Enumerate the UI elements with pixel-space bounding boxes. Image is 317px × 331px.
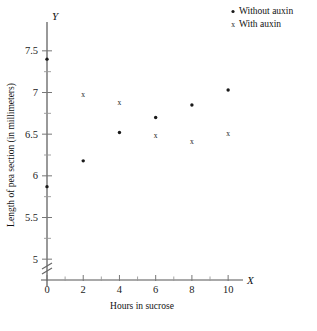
- y-tick-label: 6: [33, 170, 38, 181]
- x-axis-tick-labels: 0246810: [44, 284, 233, 295]
- data-point-x: x: [190, 137, 194, 146]
- data-point-dot: [118, 131, 121, 134]
- data-point-x: x: [226, 129, 230, 138]
- y-axis-name: Y: [52, 10, 60, 22]
- legend-label: With auxin: [239, 19, 281, 29]
- scatter-chart: 55.566.577.5 0246810 Y X Hours in sucros…: [0, 0, 317, 331]
- y-tick-label: 5.5: [25, 212, 38, 223]
- legend-marker-dot: [231, 10, 234, 13]
- x-tick-label: 6: [153, 284, 158, 295]
- data-point-dot: [45, 185, 48, 188]
- data-point-x: x: [81, 90, 85, 99]
- legend-label: Without auxin: [239, 6, 293, 16]
- data-point-x: x: [154, 131, 158, 140]
- y-axis-title: Length of pea section (in millimeters): [6, 83, 17, 227]
- data-point-dot: [154, 116, 157, 119]
- y-tick-label: 6.5: [25, 129, 38, 140]
- x-tick-label: 8: [189, 284, 194, 295]
- x-tick-label: 0: [44, 284, 49, 295]
- data-point-dot: [82, 159, 85, 162]
- x-tick-label: 2: [81, 284, 86, 295]
- y-axis-tick-labels: 55.566.577.5: [25, 45, 38, 264]
- legend-marker-x: x: [231, 20, 235, 29]
- data-points: xxxxx: [45, 57, 230, 188]
- x-axis-name: X: [246, 274, 255, 286]
- y-tick-label: 7: [33, 87, 38, 98]
- x-axis-title: Hours in sucrose: [110, 301, 174, 311]
- data-point-dot: [226, 88, 229, 91]
- legend: Without auxinxWith auxin: [231, 6, 293, 29]
- x-tick-label: 4: [117, 284, 123, 295]
- axes: [41, 22, 243, 286]
- data-point-dot: [45, 57, 48, 60]
- chart-canvas: 55.566.577.5 0246810 Y X Hours in sucros…: [0, 0, 317, 331]
- data-point-dot: [190, 103, 193, 106]
- x-tick-label: 10: [223, 284, 234, 295]
- y-tick-label: 7.5: [25, 45, 38, 56]
- y-tick-label: 5: [33, 254, 38, 265]
- data-point-x: x: [118, 98, 122, 107]
